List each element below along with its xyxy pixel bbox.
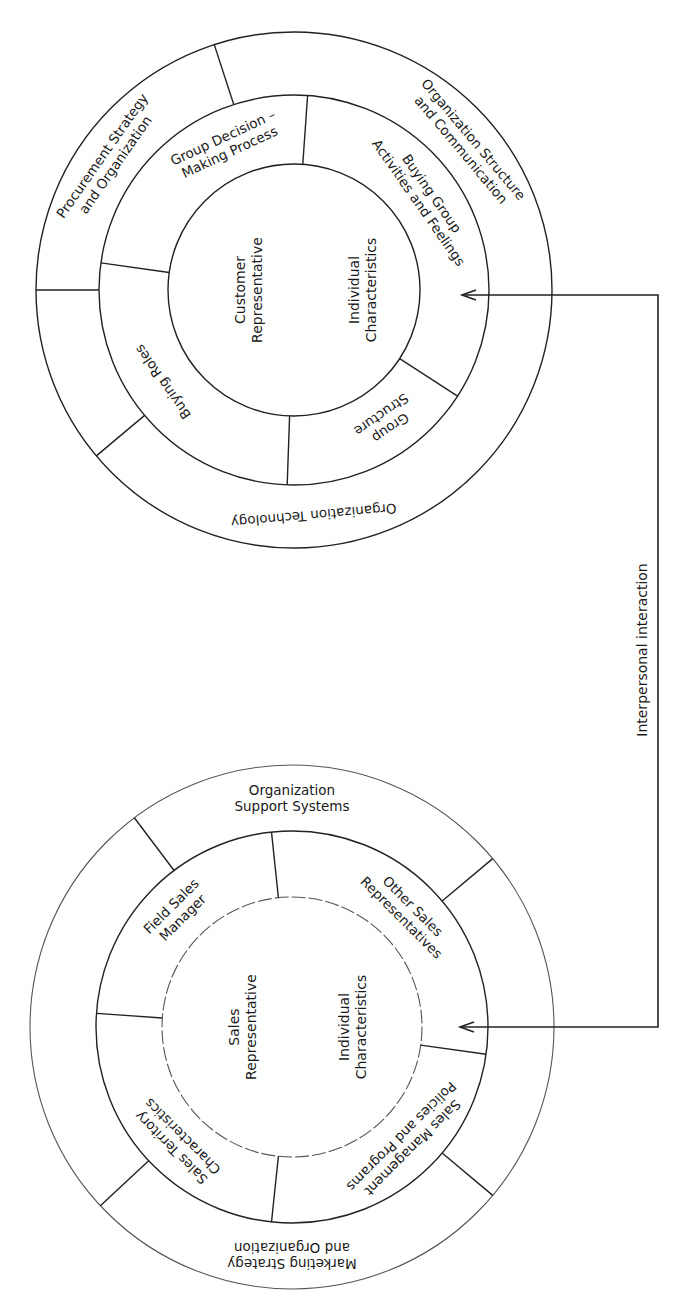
middle-ring-divider xyxy=(287,416,289,485)
outer-ring-divider xyxy=(214,45,233,105)
middle-ring-label-1: Other SalesRepresentatives xyxy=(357,862,457,962)
customer-labels: CustomerRepresentative IndividualCharact… xyxy=(232,237,379,343)
middle-ring-label-0: Group Decision –Making Process xyxy=(168,106,285,183)
outer-ring-label-2: Organization Technology xyxy=(230,500,397,530)
customer-ring-labels: Group Decision –Making ProcessBuying Gro… xyxy=(53,75,529,530)
middle-ring-divider xyxy=(96,1013,162,1018)
sales-inner-ring xyxy=(162,897,422,1157)
connector-label: Interpersonal interaction xyxy=(634,563,650,736)
customer-core-label-1: IndividualCharacteristics xyxy=(346,238,379,343)
outer-ring-label-0: OrganizationSupport Systems xyxy=(234,782,349,814)
middle-ring-divider xyxy=(400,359,458,397)
outer-ring-label-1: Marketing Strategyand Organization xyxy=(227,1240,356,1272)
sales-dividers xyxy=(96,818,492,1222)
middle-ring-divider xyxy=(272,832,279,898)
middle-ring-divider xyxy=(303,95,308,164)
middle-ring-divider xyxy=(101,263,169,273)
diagram-canvas: CustomerRepresentative IndividualCharact… xyxy=(0,0,676,1311)
outer-ring-divider xyxy=(96,415,144,455)
outer-ring-divider xyxy=(442,1153,493,1195)
connector-line xyxy=(460,295,658,1027)
middle-ring-divider xyxy=(272,1156,279,1222)
customer-core-label-0: CustomerRepresentative xyxy=(232,237,265,343)
customer-inner-ring xyxy=(168,164,420,416)
middle-ring-label-3: Sales TerritoryCharacteristics xyxy=(130,1095,224,1189)
customer-middle-ring xyxy=(99,95,489,485)
sales-ring-labels: Field SalesManagerOther SalesRepresentat… xyxy=(130,782,471,1272)
middle-ring-label-2: GroupStructure xyxy=(351,390,421,452)
middle-ring-divider xyxy=(421,1045,486,1054)
sales-core-label-1: IndividualCharacteristics xyxy=(336,975,369,1080)
middle-ring-label-2: Sales ManagementPolicies and Programs xyxy=(344,1079,471,1206)
outer-ring-divider xyxy=(134,818,174,871)
middle-ring-label-0: Field SalesManager xyxy=(140,875,213,948)
two-circle-interaction-diagram: CustomerRepresentative IndividualCharact… xyxy=(0,0,676,1311)
interpersonal-interaction-connector: Interpersonal interaction xyxy=(460,290,658,1032)
sales-labels: SalesRepresentative IndividualCharacteri… xyxy=(226,974,369,1080)
outer-ring-divider xyxy=(100,1161,148,1206)
sales-core-label-0: SalesRepresentative xyxy=(226,974,259,1080)
outer-ring-divider xyxy=(442,859,493,901)
sales-middle-ring xyxy=(96,831,488,1223)
